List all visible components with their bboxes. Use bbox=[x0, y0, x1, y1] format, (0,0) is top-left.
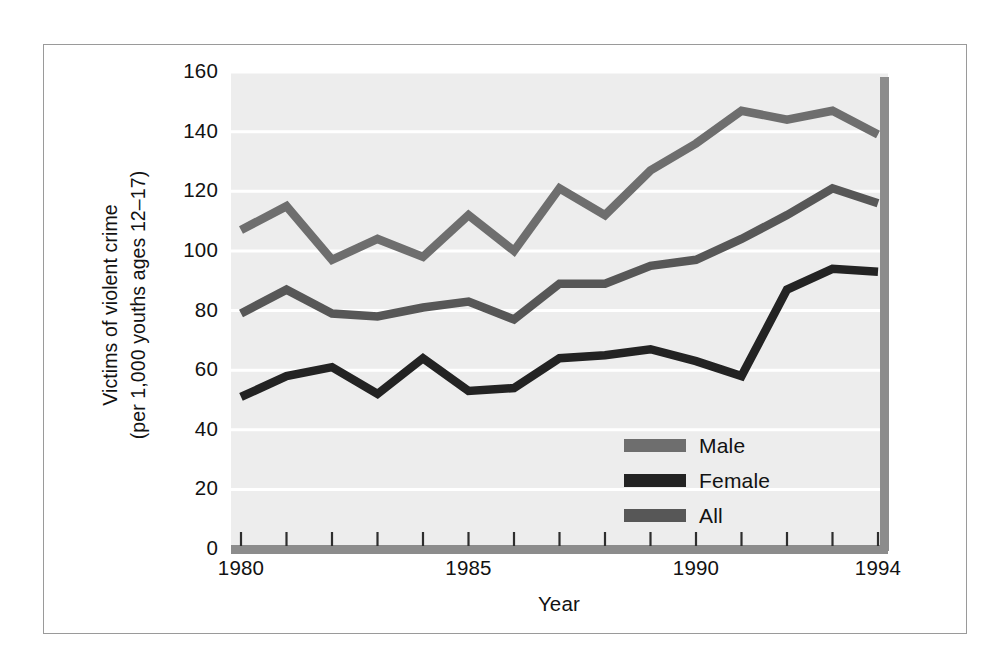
y-axis-tick-label: 120 bbox=[130, 178, 218, 202]
legend-swatch-all bbox=[624, 509, 686, 522]
x-axis-tick-label: 1994 bbox=[818, 556, 938, 580]
chart-figure: Victims of violent crime (per 1,000 yout… bbox=[0, 0, 1000, 669]
legend-label: Male bbox=[699, 434, 745, 458]
y-axis-tick-label: 80 bbox=[130, 298, 218, 322]
legend-swatch-male bbox=[624, 439, 686, 452]
x-axis-tick-label: 1985 bbox=[409, 556, 529, 580]
y-axis-tick-label: 160 bbox=[130, 59, 218, 83]
x-axis-tick-label: 1990 bbox=[636, 556, 756, 580]
y-axis-tick-label: 100 bbox=[130, 238, 218, 262]
x-axis-title: Year bbox=[459, 592, 659, 616]
x-axis-tick-label: 1980 bbox=[181, 556, 301, 580]
legend-item-all: All bbox=[624, 498, 844, 533]
y-axis-tick-label: 60 bbox=[130, 357, 218, 381]
legend-item-male: Male bbox=[624, 428, 844, 463]
y-axis-title-line-1: Victims of violent crime bbox=[96, 70, 124, 540]
right-axis-line bbox=[880, 77, 889, 551]
y-axis-tick-label: 40 bbox=[130, 417, 218, 441]
legend-label: Female bbox=[699, 469, 770, 493]
legend-item-female: Female bbox=[624, 463, 844, 498]
legend-swatch-female bbox=[624, 474, 686, 487]
y-axis-tick-label: 20 bbox=[130, 476, 218, 500]
legend-label: All bbox=[699, 504, 723, 528]
x-axis-line bbox=[231, 545, 888, 554]
chart-legend: MaleFemaleAll bbox=[624, 428, 844, 533]
y-axis-tick-label: 140 bbox=[130, 119, 218, 143]
